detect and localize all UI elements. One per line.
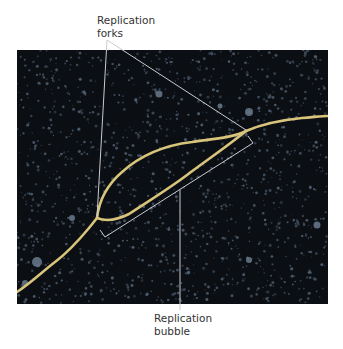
speckle xyxy=(108,164,111,167)
speckle xyxy=(263,120,265,122)
speckle xyxy=(167,262,169,264)
speckle xyxy=(280,217,282,219)
replication-forks-label: Replication forks xyxy=(97,14,155,40)
speckle xyxy=(225,209,226,210)
speckle xyxy=(79,221,81,223)
speckle xyxy=(198,68,201,71)
speckle xyxy=(206,142,207,143)
speckle xyxy=(88,62,90,64)
speckle xyxy=(197,291,199,293)
speckle xyxy=(190,240,192,242)
speckle xyxy=(305,219,308,222)
speckle xyxy=(274,293,277,296)
speckle xyxy=(160,127,162,129)
speckle xyxy=(93,266,96,269)
speckle xyxy=(164,97,165,98)
speckle xyxy=(314,107,316,109)
speckle xyxy=(292,196,294,198)
speckle xyxy=(281,110,284,113)
speckle xyxy=(216,111,218,113)
speckle xyxy=(230,152,233,155)
speckle xyxy=(149,123,152,126)
speckle xyxy=(41,286,43,288)
speckle xyxy=(221,120,223,122)
speckle xyxy=(32,141,35,144)
speckle xyxy=(264,133,267,136)
speckle xyxy=(214,292,215,293)
speckle xyxy=(60,302,62,304)
speckle xyxy=(221,208,223,210)
speckle xyxy=(26,123,29,126)
speckle xyxy=(249,217,251,219)
speckle xyxy=(290,109,292,111)
speckle xyxy=(67,158,69,160)
speckle xyxy=(222,237,225,240)
speckle xyxy=(54,111,57,114)
speckle xyxy=(221,257,223,259)
speckle xyxy=(32,61,35,64)
speckle xyxy=(304,56,305,57)
speckle xyxy=(67,151,69,153)
electron-micrograph xyxy=(17,50,328,304)
speckle xyxy=(223,204,225,206)
speckle xyxy=(277,187,280,190)
speckle xyxy=(58,79,60,81)
speckle xyxy=(176,269,179,272)
speckle xyxy=(174,92,175,93)
speckle xyxy=(265,297,268,300)
speckle xyxy=(293,221,294,222)
speckle xyxy=(66,281,67,282)
speckle xyxy=(124,257,126,259)
speckle xyxy=(246,71,249,74)
speckle xyxy=(303,75,304,76)
speckle xyxy=(58,132,59,133)
speckle xyxy=(18,92,19,93)
speckle xyxy=(102,272,103,273)
speckle xyxy=(134,56,136,58)
speckle xyxy=(79,58,80,59)
speckle xyxy=(249,240,251,242)
speckle xyxy=(210,133,212,135)
speckle xyxy=(228,60,231,63)
speckle xyxy=(214,200,215,201)
speckle xyxy=(199,94,202,97)
speckle xyxy=(116,67,117,68)
speckle xyxy=(22,196,24,198)
speckle xyxy=(49,177,50,178)
speckle xyxy=(201,222,202,223)
debris-particle xyxy=(218,104,223,109)
speckle xyxy=(304,149,305,150)
speckle xyxy=(195,126,197,128)
speckle xyxy=(291,275,294,278)
speckle xyxy=(323,253,324,254)
speckle xyxy=(27,85,28,86)
speckle xyxy=(119,168,121,170)
speckle xyxy=(156,192,158,194)
speckle xyxy=(164,88,166,90)
speckle xyxy=(171,64,172,65)
speckle xyxy=(228,112,230,114)
speckle xyxy=(149,95,152,98)
speckle xyxy=(250,56,252,58)
speckle xyxy=(128,190,129,191)
speckle xyxy=(165,58,167,60)
speckle xyxy=(97,113,100,116)
speckle xyxy=(302,139,303,140)
speckle xyxy=(244,278,245,279)
speckle xyxy=(284,241,286,243)
speckle xyxy=(258,149,261,152)
speckle xyxy=(326,185,328,187)
speckle xyxy=(263,98,265,100)
speckle xyxy=(88,177,91,180)
speckle xyxy=(66,60,68,62)
speckle xyxy=(242,178,244,180)
speckle xyxy=(27,155,29,157)
speckle xyxy=(119,214,121,216)
speckle xyxy=(108,50,110,51)
speckle xyxy=(59,114,61,116)
speckle xyxy=(135,227,138,230)
speckle xyxy=(61,294,62,295)
speckle xyxy=(205,298,208,301)
speckle xyxy=(280,201,283,204)
debris-particle xyxy=(32,257,42,267)
